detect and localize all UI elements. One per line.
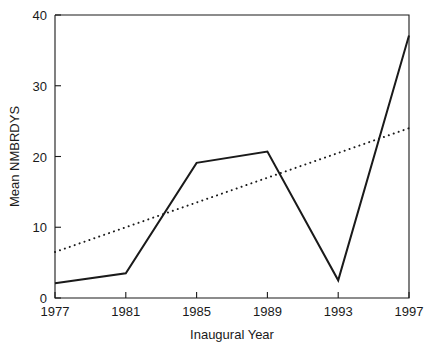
y-tick-label-10: 10 <box>33 220 47 235</box>
trend-line-series <box>55 128 409 252</box>
x-tick-label-1993: 1993 <box>324 304 353 319</box>
y-tick-label-20: 20 <box>33 150 47 165</box>
y-tick-label-30: 30 <box>33 79 47 94</box>
x-tick-label-1977: 1977 <box>41 304 70 319</box>
y-axis-title: Mean NMBRDYS <box>7 106 22 207</box>
x-tick-label-1985: 1985 <box>182 304 211 319</box>
x-axis-title: Inaugural Year <box>190 327 275 342</box>
y-tick-marks <box>55 15 61 298</box>
x-tick-label-1989: 1989 <box>253 304 282 319</box>
x-tick-label-1997: 1997 <box>395 304 424 319</box>
chart-page: 0 10 20 30 40 1977 1981 1985 1989 1993 1… <box>0 0 436 350</box>
line-chart: 0 10 20 30 40 1977 1981 1985 1989 1993 1… <box>0 0 436 350</box>
y-tick-label-40: 40 <box>33 8 47 23</box>
main-line-series <box>55 36 409 284</box>
x-tick-marks <box>55 292 409 298</box>
x-tick-label-1981: 1981 <box>111 304 140 319</box>
